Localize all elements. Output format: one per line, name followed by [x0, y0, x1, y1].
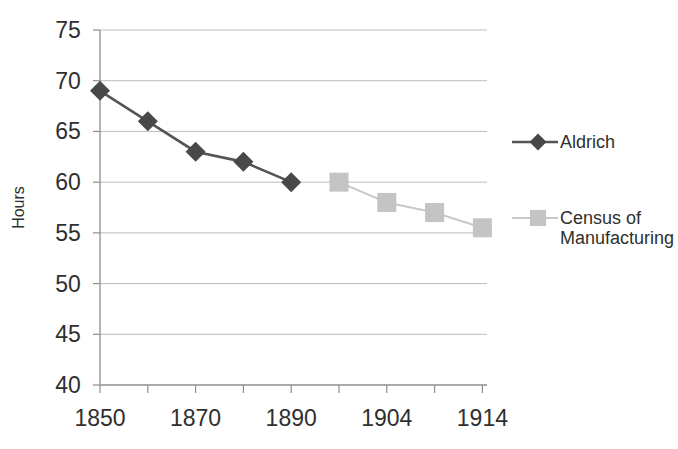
chart-figure: 404550556065707518501870189019041914Hour… [0, 0, 678, 449]
y-tick-label: 40 [55, 372, 81, 398]
y-tick-label: 75 [55, 17, 81, 43]
diamond-marker [138, 111, 158, 131]
diamond-marker [233, 152, 253, 172]
legend-label: Manufacturing [560, 228, 674, 248]
square-marker [473, 218, 492, 237]
series-line-diamond [100, 91, 291, 182]
square-marker [425, 203, 444, 222]
diamond-marker [186, 142, 206, 162]
y-tick-label: 55 [55, 220, 81, 246]
y-tick-label: 60 [55, 169, 81, 195]
series-line-square [339, 182, 482, 228]
x-tick-label: 1850 [74, 405, 125, 431]
legend-label: Census of [560, 208, 642, 228]
x-tick-label: 1890 [266, 405, 317, 431]
diamond-marker [90, 81, 110, 101]
chart-canvas: 404550556065707518501870189019041914Hour… [0, 0, 678, 449]
legend-diamond-marker [530, 134, 547, 151]
x-tick-label: 1904 [361, 405, 412, 431]
y-tick-label: 45 [55, 321, 81, 347]
y-tick-label: 65 [55, 118, 81, 144]
y-tick-label: 50 [55, 271, 81, 297]
legend-label: Aldrich [560, 132, 615, 152]
x-tick-label: 1914 [457, 405, 508, 431]
y-tick-label: 70 [55, 68, 81, 94]
square-marker [330, 173, 349, 192]
diamond-marker [281, 172, 301, 192]
x-tick-label: 1870 [170, 405, 221, 431]
square-marker [377, 193, 396, 212]
legend-square-marker [530, 210, 546, 226]
y-axis-title: Hours [10, 186, 27, 229]
